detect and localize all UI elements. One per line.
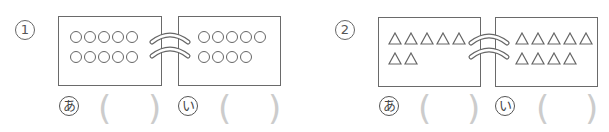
circle-icon (70, 51, 82, 63)
shape-row (515, 51, 593, 65)
circle-icon (98, 51, 110, 63)
circle-icon (254, 31, 266, 43)
circle-icon (70, 31, 82, 43)
answer-close-paren: ) (585, 88, 598, 128)
circle-icon (240, 51, 252, 63)
circle-icon (226, 31, 238, 43)
shape-group (198, 30, 266, 64)
right-card (178, 16, 281, 86)
label-i: い (178, 96, 198, 116)
circle-icon (126, 51, 138, 63)
triangle-icon (436, 32, 450, 45)
circle-icon (212, 51, 224, 63)
label-a: あ (379, 96, 399, 116)
triangle-icon (404, 52, 418, 65)
shape-row (198, 50, 266, 64)
problem-number: 2 (335, 20, 355, 40)
binder-ring-icon (148, 30, 192, 64)
triangle-icon (547, 52, 561, 65)
answer-open-paren: ( (218, 88, 231, 128)
answer-close-paren: ) (268, 88, 281, 128)
triangle-icon (531, 52, 545, 65)
shape-group (515, 31, 593, 65)
shape-group (388, 31, 466, 65)
shape-group (70, 30, 138, 64)
label-a: あ (59, 96, 79, 116)
triangle-icon (579, 32, 593, 45)
answer-close-paren: ) (148, 88, 161, 128)
triangle-icon (563, 32, 577, 45)
shape-row (70, 50, 138, 64)
circle-icon (212, 31, 224, 43)
left-card (58, 16, 162, 86)
left-card (378, 17, 481, 87)
triangle-icon (531, 32, 545, 45)
problem-number: 1 (15, 20, 35, 40)
triangle-icon (420, 32, 434, 45)
answer-open-paren: ( (536, 88, 549, 128)
triangle-icon (515, 52, 529, 65)
circle-icon (226, 51, 238, 63)
circle-icon (98, 31, 110, 43)
circle-icon (112, 31, 124, 43)
shape-row (515, 31, 593, 45)
answer-open-paren: ( (418, 88, 431, 128)
circle-icon (126, 31, 138, 43)
triangle-icon (452, 32, 466, 45)
triangle-icon (404, 32, 418, 45)
shape-row (198, 30, 266, 44)
circle-icon (84, 51, 96, 63)
circle-icon (84, 31, 96, 43)
triangle-icon (388, 52, 402, 65)
circle-icon (240, 31, 252, 43)
triangle-icon (515, 32, 529, 45)
shape-row (388, 31, 466, 45)
circle-icon (198, 31, 210, 43)
triangle-icon (563, 52, 577, 65)
shape-row (70, 30, 138, 44)
circle-icon (112, 51, 124, 63)
label-i: い (495, 96, 515, 116)
binder-ring-icon (467, 31, 511, 65)
answer-open-paren: ( (98, 88, 111, 128)
shape-row (388, 51, 466, 65)
circle-icon (198, 51, 210, 63)
answer-close-paren: ) (467, 88, 480, 128)
triangle-icon (388, 32, 402, 45)
triangle-icon (547, 32, 561, 45)
